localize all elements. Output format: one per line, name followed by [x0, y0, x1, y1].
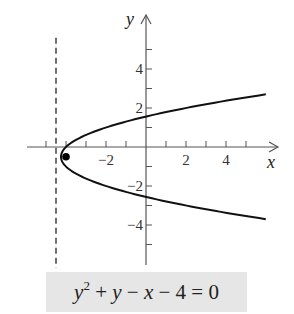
- focus-point: [62, 153, 70, 161]
- eq-var-x: x: [144, 280, 153, 304]
- eq-var-y: y: [112, 280, 121, 304]
- y-axis-label: y: [124, 9, 134, 29]
- eq-op: − 4 = 0: [153, 280, 219, 304]
- parabola-plot: −22442−2−4 x y: [0, 0, 294, 270]
- eq-op: −: [122, 280, 144, 304]
- y-tick-label: 4: [136, 61, 144, 77]
- equation-text: y2 + y − x − 4 = 0: [74, 280, 219, 305]
- parabola-curve: [61, 94, 266, 219]
- x-tick-label: 4: [222, 152, 230, 168]
- y-tick-label: 2: [136, 100, 144, 116]
- equation-box: y2 + y − x − 4 = 0: [46, 272, 247, 312]
- x-axis-label: x: [266, 152, 275, 172]
- coordinate-axes: [27, 15, 278, 265]
- eq-var-y: y: [74, 280, 83, 304]
- y-tick-label: −2: [127, 178, 143, 194]
- x-tick-label: 2: [182, 152, 190, 168]
- parabola-path: [61, 94, 266, 219]
- eq-op: +: [90, 280, 112, 304]
- x-tick-label: −2: [98, 152, 114, 168]
- y-tick-label: −4: [127, 217, 143, 233]
- focus-dot-icon: [62, 153, 70, 161]
